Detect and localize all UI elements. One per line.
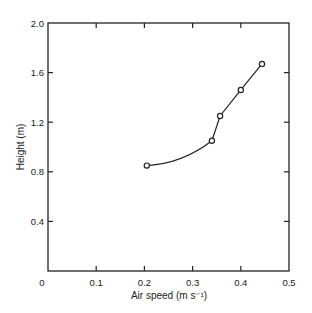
- data-point: [259, 61, 264, 66]
- y-tick-label: 2.0: [31, 18, 44, 29]
- x-tick-label: 0: [39, 277, 44, 288]
- x-tick-label: 0.5: [282, 277, 295, 288]
- data-point: [238, 87, 243, 92]
- x-tick-label: 0.3: [186, 277, 199, 288]
- x-tick-label: 0.4: [234, 277, 247, 288]
- y-tick-label: 1.2: [31, 117, 44, 128]
- y-tick-label: 1.6: [31, 67, 44, 78]
- data-series: [144, 61, 264, 168]
- data-point: [217, 113, 222, 118]
- x-tick-label: 0.1: [90, 277, 103, 288]
- plot-frame: [48, 23, 289, 271]
- y-tick-label: 0.8: [31, 166, 44, 177]
- data-point: [144, 163, 149, 168]
- data-point: [209, 138, 214, 143]
- chart: 00.10.20.30.40.50.40.81.21.62.0 Air spee…: [0, 0, 312, 313]
- x-axis-label: Air speed (m s⁻¹): [131, 290, 207, 301]
- ticks: 00.10.20.30.40.50.40.81.21.62.0: [31, 18, 296, 289]
- x-tick-label: 0.2: [138, 277, 151, 288]
- y-tick-label: 0.4: [31, 216, 44, 227]
- y-axis-label: Height (m): [15, 124, 26, 171]
